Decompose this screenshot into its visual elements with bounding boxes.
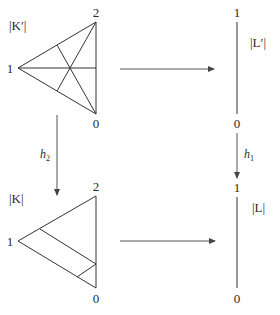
k-prime-vertex-0: 0 [93, 116, 100, 131]
k-prime-vertex-1: 1 [7, 61, 14, 76]
l-prime-vertex-1: 1 [234, 5, 241, 20]
complex-l: 1 0 |L| [234, 180, 265, 306]
k-vertex-2: 2 [93, 179, 100, 194]
h1-label: h1 [244, 147, 254, 163]
l-prime-label: |L′| [250, 35, 266, 50]
k-inner-line-2 [77, 264, 96, 277]
complex-k: |K| 2 1 0 [7, 179, 100, 306]
h2-label: h2 [40, 147, 50, 163]
l-prime-vertex-0: 0 [234, 116, 241, 131]
l-label: |L| [252, 200, 265, 215]
l-vertex-0: 0 [234, 291, 241, 306]
k-label: |K| [9, 191, 24, 206]
k-prime-median-2 [57, 22, 96, 91]
commutative-diagram: |K′| 2 1 0 1 0 |L′| h2 h1 |K| 2 1 0 1 0 … [0, 0, 280, 315]
k-prime-label: |K′| [9, 18, 26, 33]
k-vertex-1: 1 [7, 234, 14, 249]
k-vertex-0: 0 [93, 291, 100, 306]
k-triangle [18, 196, 96, 288]
k-prime-median-0 [57, 45, 96, 114]
k-prime-vertex-2: 2 [93, 5, 100, 20]
l-vertex-1: 1 [234, 180, 241, 195]
complex-k-prime: |K′| 2 1 0 [7, 5, 100, 131]
complex-l-prime: 1 0 |L′| [234, 5, 266, 131]
